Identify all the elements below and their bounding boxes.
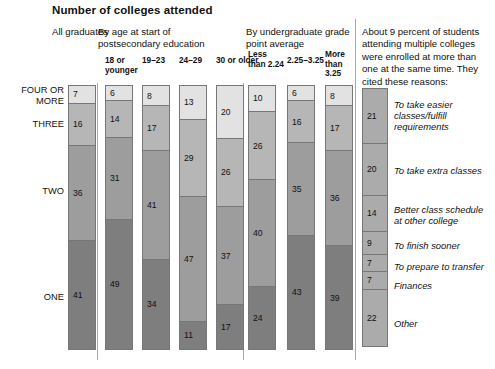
category-label-two: TWO bbox=[0, 186, 64, 197]
bar-segment: 41 bbox=[68, 240, 96, 350]
bar-segment: 14 bbox=[105, 100, 133, 138]
bar-segment-value: 7 bbox=[69, 89, 78, 99]
bar-segment-value: 29 bbox=[180, 153, 194, 163]
bar-segment-value: 14 bbox=[106, 114, 120, 124]
bar-segment: 49 bbox=[105, 219, 133, 350]
bar-segment: 8 bbox=[325, 85, 353, 106]
bar-segment-value: 43 bbox=[288, 287, 302, 297]
bar-segment-value: 49 bbox=[106, 279, 120, 289]
bar-segment: 43 bbox=[287, 235, 315, 350]
bar-segment-value: 8 bbox=[143, 91, 152, 101]
reason-value: 20 bbox=[363, 164, 377, 174]
bar-segment: 17 bbox=[325, 105, 353, 151]
bar-segment: 17 bbox=[216, 304, 244, 350]
reason-value: 9 bbox=[363, 238, 372, 248]
stacked-bar: 20263717 bbox=[216, 85, 244, 353]
reason-value: 22 bbox=[363, 313, 377, 323]
bar-segment-value: 6 bbox=[288, 88, 297, 98]
divider-after-all-graduates bbox=[97, 83, 98, 360]
bar-segment-value: 26 bbox=[217, 167, 231, 177]
reason-value: 7 bbox=[363, 258, 372, 268]
chart-canvas: Number of colleges attended All graduate… bbox=[0, 0, 495, 369]
stacked-bar: 6143149 bbox=[105, 85, 133, 353]
reason-label: To take extra classes bbox=[394, 165, 492, 176]
bar-segment: 41 bbox=[142, 150, 170, 260]
bar-segment: 47 bbox=[179, 196, 207, 322]
bar-segment-value: 31 bbox=[106, 173, 120, 183]
stacked-bar: 6163543 bbox=[287, 85, 315, 353]
side-panel-note: About 9 percent of students attending mu… bbox=[362, 26, 494, 88]
reason-label: To take easier classes/fulfill requireme… bbox=[394, 99, 492, 133]
subheader-gpa-less-than-224: Less than 2.24 bbox=[248, 50, 286, 69]
stacked-bar: 7163641 bbox=[68, 85, 96, 353]
stacked-bar: 8173639 bbox=[325, 85, 353, 353]
reasons-bar: 21201497722 bbox=[362, 88, 388, 353]
bar-segment: 17 bbox=[142, 105, 170, 151]
reason-value: 7 bbox=[363, 275, 372, 285]
bar-segment-value: 24 bbox=[249, 313, 263, 323]
bar-segment-value: 16 bbox=[69, 119, 83, 129]
bar-segment: 37 bbox=[216, 206, 244, 305]
reason-segment: 9 bbox=[362, 231, 388, 255]
group-caption-by-age: By age at start of postsecondary educati… bbox=[98, 26, 228, 50]
stacked-bar: 8174134 bbox=[142, 85, 170, 353]
subheader-gpa-more-than-325: More than 3.25 bbox=[325, 50, 359, 79]
bar-segment-value: 36 bbox=[326, 193, 340, 203]
reason-segment: 7 bbox=[362, 271, 388, 290]
stacked-bar: 10264024 bbox=[248, 85, 276, 353]
group-caption-by-gpa: By undergraduate grade point average bbox=[246, 26, 356, 50]
reason-label: To finish sooner bbox=[394, 240, 492, 251]
bar-segment-value: 8 bbox=[326, 91, 335, 101]
bar-segment-value: 36 bbox=[69, 188, 83, 198]
bar-segment-value: 17 bbox=[143, 123, 157, 133]
reason-segment: 20 bbox=[362, 143, 388, 196]
category-label-one: ONE bbox=[0, 292, 64, 303]
category-label-four-or-more: FOUR OR MORE bbox=[0, 85, 64, 106]
bar-segment: 35 bbox=[287, 142, 315, 236]
reason-segment: 21 bbox=[362, 88, 388, 144]
reason-label: Better class schedule at other college bbox=[394, 204, 492, 226]
bar-segment-value: 37 bbox=[217, 251, 231, 261]
bar-segment: 6 bbox=[105, 85, 133, 101]
bar-segment: 34 bbox=[142, 259, 170, 350]
bar-segment-value: 26 bbox=[249, 141, 263, 151]
stacked-bar: 13294711 bbox=[179, 85, 207, 353]
bar-segment-value: 47 bbox=[180, 254, 194, 264]
bar-segment-value: 6 bbox=[106, 88, 115, 98]
bar-segment: 26 bbox=[248, 111, 276, 181]
reason-label: To prepare to transfer bbox=[394, 261, 492, 272]
reason-segment: 7 bbox=[362, 254, 388, 273]
bar-segment: 29 bbox=[179, 119, 207, 197]
category-label-three: THREE bbox=[0, 119, 64, 130]
bar-segment-value: 11 bbox=[180, 330, 193, 340]
bar-segment: 36 bbox=[68, 145, 96, 241]
bar-segment: 24 bbox=[248, 286, 276, 350]
bar-segment-value: 17 bbox=[326, 123, 340, 133]
bar-segment-value: 10 bbox=[249, 93, 263, 103]
bar-segment: 8 bbox=[142, 85, 170, 106]
bar-segment: 39 bbox=[325, 245, 353, 350]
bar-segment: 7 bbox=[68, 85, 96, 104]
bar-segment: 26 bbox=[216, 138, 244, 208]
bar-segment: 6 bbox=[287, 85, 315, 101]
bar-segment: 16 bbox=[68, 103, 96, 146]
bar-segment-value: 16 bbox=[288, 117, 302, 127]
bar-segment-value: 13 bbox=[180, 97, 194, 107]
reason-segment: 22 bbox=[362, 289, 388, 347]
bar-segment-value: 40 bbox=[249, 228, 263, 238]
reason-value: 21 bbox=[363, 111, 377, 121]
reason-label: Finances bbox=[394, 280, 492, 291]
bar-segment-value: 35 bbox=[288, 184, 302, 194]
reason-value: 14 bbox=[363, 208, 377, 218]
bar-segment: 36 bbox=[325, 150, 353, 246]
bar-segment-value: 41 bbox=[69, 290, 83, 300]
bar-segment-value: 20 bbox=[217, 107, 231, 117]
bar-segment-value: 17 bbox=[217, 322, 231, 332]
bar-segment: 40 bbox=[248, 179, 276, 286]
bar-segment-value: 41 bbox=[143, 200, 157, 210]
reason-label: Other bbox=[394, 318, 492, 329]
bar-segment: 16 bbox=[287, 100, 315, 143]
bar-segment: 20 bbox=[216, 85, 244, 139]
bar-segment: 13 bbox=[179, 85, 207, 120]
bar-segment: 11 bbox=[179, 321, 207, 350]
